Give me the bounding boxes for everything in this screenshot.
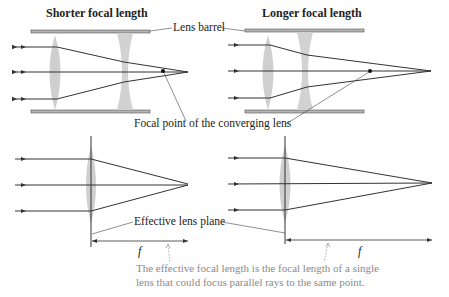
title-shorter-focal: Shorter focal length bbox=[46, 7, 148, 20]
panel-shorter-focal bbox=[15, 30, 188, 113]
leader-effective-left bbox=[92, 222, 133, 234]
f-symbol-right: f bbox=[358, 245, 361, 258]
lens-barrel-bottom bbox=[31, 110, 150, 113]
leader-focal-right bbox=[286, 72, 369, 124]
leader-lens-barrel-right bbox=[222, 28, 245, 31]
note-line-1: The effective focal length is the focal … bbox=[136, 262, 379, 275]
leader-lens-barrel-left bbox=[150, 28, 172, 31]
panel-longer-focal bbox=[228, 29, 431, 113]
f-symbol-left: f bbox=[138, 245, 141, 258]
focal-point-dot bbox=[161, 69, 165, 73]
panel-effective-right bbox=[228, 136, 432, 262]
label-effective-lens-plane: Effective lens plane bbox=[134, 215, 225, 228]
converging-lens bbox=[263, 35, 274, 110]
note-line-2: lens that could focus parallel rays to t… bbox=[136, 276, 365, 289]
label-focal-point: Focal point of the converging lens bbox=[134, 117, 291, 130]
lens-barrel-top bbox=[31, 30, 150, 33]
title-longer-focal: Longer focal length bbox=[262, 7, 362, 20]
panel-effective-left bbox=[15, 136, 188, 262]
leader-focal-left bbox=[164, 73, 186, 121]
zoom-lens-diagram: Shorter focal length Longer focal length… bbox=[0, 0, 449, 297]
leader-effective-right bbox=[222, 222, 285, 233]
label-lens-barrel: Lens barrel bbox=[173, 21, 225, 34]
lens-barrel-top bbox=[245, 29, 364, 32]
